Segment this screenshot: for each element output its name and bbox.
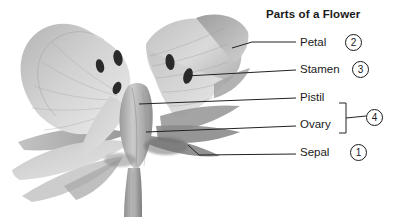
page-title: Parts of a Flower — [266, 8, 360, 20]
callout-number-stamen: 3 — [352, 61, 369, 78]
group-bracket-stem — [346, 116, 366, 118]
callout-number-petal: 2 — [345, 34, 362, 51]
label-sepal: Sepal — [300, 146, 329, 158]
label-ovary: Ovary — [300, 118, 331, 130]
figure-canvas: Parts of a Flower Petal 2 Stamen 3 Pisti… — [0, 0, 407, 217]
leader-line-petal — [232, 42, 296, 48]
callout-number-sepal: 1 — [350, 144, 367, 161]
leader-lines-overlay — [0, 0, 407, 217]
label-stamen: Stamen — [300, 63, 340, 75]
leader-line-pistil — [139, 98, 296, 104]
group-bracket — [339, 103, 346, 133]
callout-number-pistil-ovary-group: 4 — [366, 109, 383, 126]
leader-line-stamen — [186, 70, 296, 76]
leader-line-sepal — [188, 145, 296, 155]
label-petal: Petal — [300, 36, 326, 48]
leader-line-ovary — [146, 126, 296, 132]
label-pistil: Pistil — [300, 91, 324, 103]
